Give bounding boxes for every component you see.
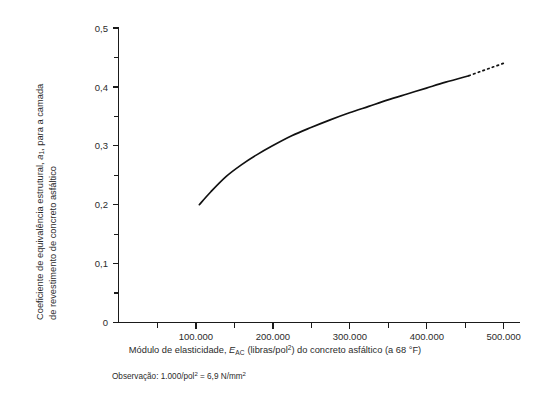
- y-axis-title-line-2: de revestimento de concreto asfáltico: [49, 0, 58, 320]
- y-axis-title-line-1-text: Coeficiente de equivalência estrutural,: [35, 160, 45, 320]
- x-tick-label-100000: 100.000: [179, 331, 213, 342]
- y-axis-title-line-1-tail: , para a camada: [35, 84, 45, 151]
- y-tick-label-0: 0: [103, 317, 108, 328]
- y-axis-title-subscript: 1: [38, 151, 45, 155]
- data-curve-solid: [199, 76, 468, 205]
- x-axis-title-subscript: AC: [235, 349, 245, 356]
- x-axis-title-part2: (libras/pol: [245, 345, 288, 355]
- x-major-ticks: [196, 323, 504, 330]
- y-axis-title-symbol: a: [35, 155, 45, 160]
- x-tick-label-500000: 500.000: [487, 331, 521, 342]
- y-tick-label-0-1: 0,1: [95, 258, 108, 269]
- footnote-middle: = 6,9 N/mm: [198, 372, 243, 381]
- x-tick-label-200000: 200.000: [256, 331, 290, 342]
- x-tick-label-400000: 400.000: [410, 331, 444, 342]
- chart-plot-area: 0 0,1 0,2 0,3 0,4 0,5 100.000 200.000 30…: [0, 0, 550, 402]
- x-tick-label-300000: 300.000: [333, 331, 367, 342]
- observation-footnote: Observação: 1.000/pol2 = 6,9 N/mm2: [112, 371, 246, 381]
- x-axis-title: Módulo de elasticidade, EAC (libras/pol2…: [0, 344, 550, 356]
- y-minor-ticks: [114, 57, 119, 293]
- x-axis-title-part1: Módulo de elasticidade,: [129, 345, 229, 355]
- x-minor-ticks: [157, 323, 465, 329]
- y-axis-title: Coeficiente de equivalência estrutural, …: [22, 0, 82, 340]
- y-axis-title-line-1: Coeficiente de equivalência estrutural, …: [36, 0, 45, 320]
- x-axis-title-part3: ) do concreto asfáltico (a 68 °F): [291, 345, 421, 355]
- footnote-superscript-2: 2: [243, 371, 246, 377]
- footnote-prefix: Observação: 1.000/pol: [112, 372, 194, 381]
- y-tick-label-0-2: 0,2: [95, 199, 108, 210]
- data-curve-dotted-extrapolation: [469, 63, 504, 75]
- y-tick-label-0-3: 0,3: [95, 140, 108, 151]
- chart-figure: 0 0,1 0,2 0,3 0,4 0,5 100.000 200.000 30…: [0, 0, 550, 402]
- y-tick-label-0-4: 0,4: [95, 82, 108, 93]
- y-tick-label-0-5: 0,5: [95, 23, 108, 34]
